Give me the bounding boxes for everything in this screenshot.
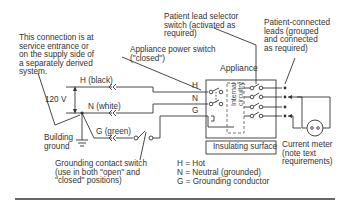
voltage-label: 120 V (45, 96, 66, 105)
ground-wire-label: G (green) (96, 128, 131, 137)
current-meter-icon (307, 120, 323, 136)
connection-note: This connection is at service entrance o… (19, 34, 94, 77)
leakage-current-test-diagram: This connection is at service entrance o… (0, 0, 352, 200)
patient-lead-selector-note: Patient lead selector switch (activated … (164, 13, 238, 39)
current-meter-note: Current meter (note text requirements) (282, 141, 333, 167)
building-ground-label: Building ground (44, 134, 73, 151)
insulating-surface-label: Insulating surface (213, 143, 277, 152)
legend-ground: G = Grounding conductor (177, 178, 269, 187)
appliance-label: Appliance (220, 64, 258, 73)
neutral-wire-label: N (white) (88, 103, 121, 112)
terminal-g: G (192, 107, 198, 116)
grounding-contact-switch-note: Grounding contact switch (use in both "o… (55, 160, 147, 186)
appliance-power-switch-note: Appliance power switch ("closed") (130, 46, 216, 63)
patient-connected-leads-note: Patient-connected leads (grouped and con… (264, 19, 330, 53)
internal-circuitry-label: Internal circuitry (230, 82, 244, 106)
grounding-switch-blade (138, 131, 145, 138)
hot-wire-label: H (black) (80, 77, 113, 86)
terminal-n: N (192, 95, 198, 104)
terminal-h: H (192, 82, 198, 91)
